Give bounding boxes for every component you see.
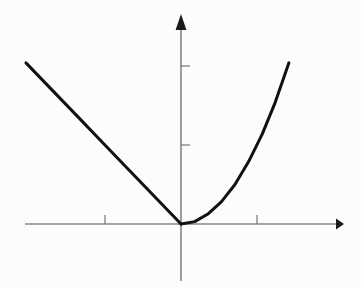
coordinate-plot: [0, 0, 361, 287]
graph-figure: [0, 0, 361, 287]
